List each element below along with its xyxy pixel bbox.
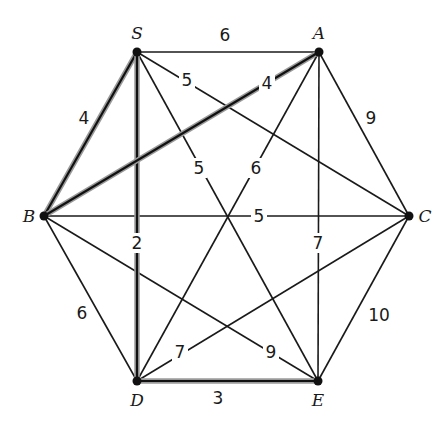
vertex-label: D [129, 390, 144, 410]
weight-label-s-e-text: 5 [194, 158, 205, 178]
weight-label-b-c-text: 5 [254, 206, 265, 226]
weight-label-s-b: 4 [79, 108, 90, 128]
vertex-dot [314, 377, 323, 386]
vertex-label: B [22, 206, 36, 226]
weight-label-a-b-text: 4 [262, 73, 273, 93]
vertex-label: C [418, 206, 431, 226]
weight-label-s-d-text: 2 [132, 233, 143, 253]
weight-label-d-e-text: 3 [213, 388, 224, 408]
weight-label-c-e-text: 10 [368, 305, 390, 325]
weight-label-s-b-text: 4 [79, 108, 90, 128]
vertex-dot [40, 212, 49, 221]
edge-b-d [44, 216, 137, 381]
weight-label-a-d-text: 6 [251, 158, 262, 178]
weight-label-c-e: 10 [368, 305, 390, 325]
edges-layer [44, 52, 409, 381]
vertex-b: B [22, 206, 49, 226]
weight-label-b-e: 9 [263, 342, 279, 362]
weight-label-d-e: 3 [213, 388, 224, 408]
weight-label-s-d: 2 [129, 233, 145, 253]
weight-label-a-e: 7 [310, 233, 326, 253]
vertex-dot [133, 377, 142, 386]
weighted-graph: 6455249675697103 SABCDE [0, 0, 442, 425]
vertex-s: S [131, 23, 143, 57]
vertex-dot [133, 48, 142, 57]
weight-label-s-e: 5 [191, 158, 207, 178]
edge-c-e-line [318, 216, 409, 381]
weight-label-a-c-text: 9 [366, 108, 377, 128]
weight-label-s-c-text: 5 [182, 70, 193, 90]
edge-a-c [319, 52, 409, 216]
vertex-label: A [311, 23, 325, 43]
weight-label-a-b: 4 [259, 73, 275, 93]
vertex-dot [405, 212, 414, 221]
weight-label-s-a-text: 6 [220, 25, 231, 45]
weight-label-c-d-text: 7 [175, 342, 186, 362]
edge-b-d-line [44, 216, 137, 381]
weight-label-c-d: 7 [172, 342, 188, 362]
weight-label-b-d: 6 [77, 303, 88, 323]
weight-label-b-e-text: 9 [266, 342, 277, 362]
weight-label-b-c: 5 [251, 206, 267, 226]
vertex-c: C [405, 206, 432, 226]
weight-label-b-d-text: 6 [77, 303, 88, 323]
edge-a-c-line [319, 52, 409, 216]
edge-c-e [318, 216, 409, 381]
weight-label-s-c: 5 [179, 70, 195, 90]
vertex-label: S [131, 23, 143, 43]
vertex-dot [315, 48, 324, 57]
weight-label-s-a: 6 [220, 25, 231, 45]
vertex-label: E [311, 390, 325, 410]
weight-label-a-e-text: 7 [313, 233, 324, 253]
weight-label-a-d: 6 [248, 158, 264, 178]
weight-label-a-c: 9 [366, 108, 377, 128]
